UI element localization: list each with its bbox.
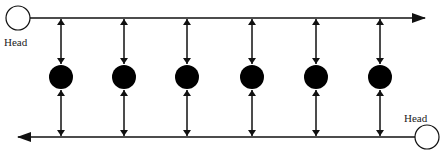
list-node xyxy=(112,65,136,89)
list-node xyxy=(240,65,264,89)
bottom-head-node xyxy=(415,125,439,149)
list-node xyxy=(49,65,73,89)
list-node xyxy=(175,65,199,89)
linked-list-diagram xyxy=(0,0,443,153)
list-node xyxy=(368,65,392,89)
top-head-node xyxy=(6,6,30,30)
list-node xyxy=(304,65,328,89)
node-links xyxy=(61,19,380,136)
top-head-label: Head xyxy=(4,36,27,48)
bottom-head-label: Head xyxy=(404,112,427,124)
list-nodes xyxy=(49,65,392,89)
